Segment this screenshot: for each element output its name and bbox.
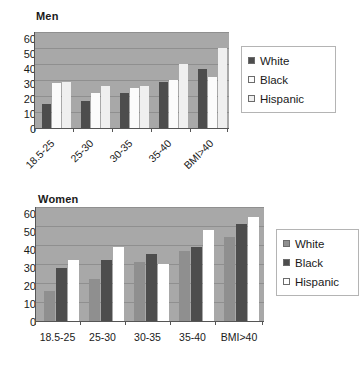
bar-women-18.5-25-white bbox=[44, 291, 55, 321]
chart-women: Women 60 50 40 30 20 10 0 bbox=[0, 185, 363, 367]
legend-item-black[interactable]: Black bbox=[277, 253, 358, 272]
bar-women-18.5-25-black bbox=[56, 268, 67, 321]
bar-men-bmi40-hispanic bbox=[218, 48, 227, 128]
chart-women-legend: White Black Hispanic bbox=[276, 229, 359, 296]
bar-women-18.5-25-hispanic bbox=[68, 260, 79, 321]
y-tick-label: 0 bbox=[8, 124, 36, 135]
bar-men-25-30-black bbox=[91, 93, 100, 128]
y-tick-label: 30 bbox=[8, 263, 36, 274]
legend-label-white: White bbox=[260, 55, 289, 67]
legend-label-black: Black bbox=[295, 257, 323, 269]
x-tick-label-women-4: BMI>40 bbox=[215, 331, 263, 343]
legend-item-white[interactable]: White bbox=[277, 234, 358, 253]
chart-women-title: Women bbox=[38, 193, 79, 205]
x-tick-mark bbox=[262, 322, 263, 325]
y-tick-label: 30 bbox=[8, 79, 36, 90]
gridline bbox=[35, 32, 229, 33]
legend-swatch-black-icon bbox=[248, 76, 255, 83]
legend-swatch-white-icon bbox=[283, 240, 290, 247]
bar-women-35-40-black bbox=[191, 247, 202, 321]
x-tick-label-men-1: 25-30 bbox=[50, 137, 95, 182]
y-tick-label: 10 bbox=[8, 109, 36, 120]
legend-swatch-white-icon bbox=[248, 57, 255, 64]
y-tick-label: 40 bbox=[8, 245, 36, 256]
bar-men-30-35-white bbox=[120, 93, 129, 128]
x-tick-mark bbox=[125, 322, 126, 325]
legend-swatch-hispanic-icon bbox=[248, 95, 255, 102]
chart-women-plot-area bbox=[35, 207, 264, 322]
bar-men-35-40-white bbox=[159, 82, 168, 128]
bar-women-25-30-black bbox=[101, 260, 112, 321]
legend-item-hispanic[interactable]: Hispanic bbox=[242, 89, 335, 108]
chart-men-title: Men bbox=[36, 10, 59, 22]
legend-item-white[interactable]: White bbox=[242, 51, 335, 70]
bar-men-25-30-white bbox=[81, 101, 90, 128]
chart-men: Men 60 50 40 30 20 10 0 bbox=[0, 0, 363, 182]
legend-swatch-hispanic-icon bbox=[283, 278, 290, 285]
x-tick-label-men-3: 35-40 bbox=[128, 137, 173, 182]
gridline bbox=[36, 207, 264, 208]
bar-men-25-30-hispanic bbox=[101, 86, 110, 128]
x-tick-mark bbox=[227, 129, 228, 132]
bar-men-35-40-hispanic bbox=[179, 64, 188, 128]
x-tick-label-women-3: 35-40 bbox=[170, 331, 215, 343]
y-tick-label: 40 bbox=[8, 64, 36, 75]
bar-men-bmi40-black bbox=[208, 77, 217, 128]
bar-women-30-35-white bbox=[134, 262, 145, 321]
legend-item-hispanic[interactable]: Hispanic bbox=[277, 272, 358, 291]
gridline bbox=[35, 48, 229, 49]
chart-men-legend: White Black Hispanic bbox=[241, 46, 336, 113]
x-tick-label-women-0: 18.5-25 bbox=[35, 331, 80, 343]
legend-label-hispanic: Hispanic bbox=[260, 93, 304, 105]
x-tick-mark bbox=[34, 129, 35, 132]
bar-women-bmi40-hispanic bbox=[248, 217, 259, 322]
bar-men-30-35-hispanic bbox=[140, 86, 149, 128]
x-tick-mark bbox=[73, 129, 74, 132]
gridline bbox=[35, 64, 229, 65]
legend-label-hispanic: Hispanic bbox=[295, 276, 339, 288]
bar-men-18.5-25-white bbox=[42, 104, 51, 128]
y-tick-label: 10 bbox=[8, 299, 36, 310]
legend-swatch-black-icon bbox=[283, 259, 290, 266]
x-tick-label-men-2: 30-35 bbox=[89, 137, 134, 182]
x-tick-mark bbox=[170, 322, 171, 325]
y-tick-label: 50 bbox=[8, 49, 36, 60]
bar-women-35-40-white bbox=[179, 251, 190, 321]
bar-men-18.5-25-black bbox=[52, 83, 61, 128]
x-tick-label-women-2: 30-35 bbox=[125, 331, 170, 343]
bar-women-bmi40-black bbox=[236, 224, 247, 321]
bar-women-30-35-black bbox=[146, 254, 157, 322]
bar-women-35-40-hispanic bbox=[203, 230, 214, 321]
bar-men-30-35-black bbox=[130, 88, 139, 128]
x-tick-label-men-4: BMI>40 bbox=[170, 137, 215, 182]
bar-women-bmi40-white bbox=[224, 237, 235, 321]
x-tick-label-women-1: 25-30 bbox=[80, 331, 125, 343]
chart-men-x-axis bbox=[34, 129, 228, 133]
y-tick-label: 60 bbox=[8, 34, 36, 45]
legend-label-white: White bbox=[295, 238, 324, 250]
y-tick-label: 20 bbox=[8, 281, 36, 292]
y-tick-label: 0 bbox=[8, 317, 36, 328]
x-tick-mark bbox=[112, 129, 113, 132]
y-tick-label: 60 bbox=[8, 209, 36, 220]
x-tick-mark bbox=[35, 322, 36, 325]
x-tick-mark bbox=[80, 322, 81, 325]
x-tick-mark bbox=[151, 129, 152, 132]
chart-men-plot-area bbox=[34, 32, 229, 129]
y-tick-label: 20 bbox=[8, 94, 36, 105]
bar-men-35-40-black bbox=[169, 80, 178, 128]
bar-women-30-35-hispanic bbox=[158, 264, 169, 321]
bar-women-25-30-white bbox=[89, 279, 100, 321]
chart-women-y-axis: 60 50 40 30 20 10 0 bbox=[0, 185, 36, 367]
x-tick-mark bbox=[190, 129, 191, 132]
bar-women-25-30-hispanic bbox=[113, 247, 124, 321]
gridline bbox=[36, 226, 264, 227]
figure-container: Men 60 50 40 30 20 10 0 bbox=[0, 0, 363, 367]
legend-item-black[interactable]: Black bbox=[242, 70, 335, 89]
bar-men-18.5-25-hispanic bbox=[62, 82, 71, 128]
legend-label-black: Black bbox=[260, 74, 288, 86]
y-tick-label: 50 bbox=[8, 227, 36, 238]
bar-men-bmi40-white bbox=[198, 69, 207, 128]
x-tick-mark bbox=[215, 322, 216, 325]
chart-women-x-axis bbox=[35, 322, 263, 326]
